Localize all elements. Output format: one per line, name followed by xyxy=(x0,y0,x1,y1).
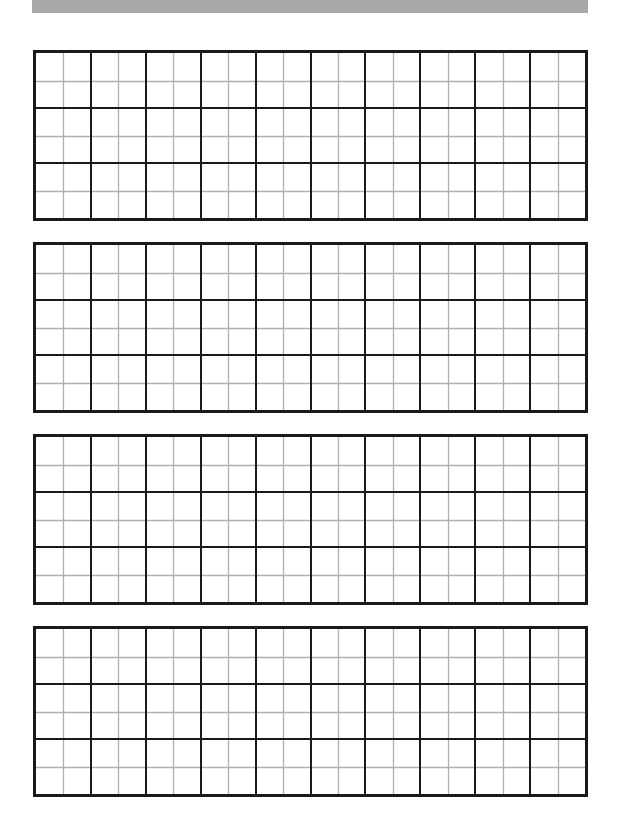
practice-grid-2 xyxy=(33,242,588,413)
grid-lines xyxy=(36,245,585,410)
header-bar xyxy=(32,0,588,13)
grid-lines xyxy=(36,629,585,794)
grid-lines xyxy=(36,437,585,602)
practice-grid-4 xyxy=(33,626,588,797)
practice-grid-3 xyxy=(33,434,588,605)
grid-lines xyxy=(36,53,585,218)
practice-grid-1 xyxy=(33,50,588,221)
